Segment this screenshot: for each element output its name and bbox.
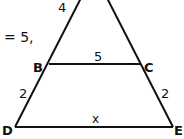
label-top-left: 4 [58, 0, 66, 15]
vertex-c-label: C [144, 60, 154, 75]
label-bc: 5 [94, 49, 102, 64]
triangle-diagram: = 5, 4 5 2 2 x B C D E [0, 0, 184, 139]
label-de: x [92, 112, 99, 126]
vertex-d-label: D [2, 123, 13, 138]
label-ce: 2 [161, 86, 169, 101]
label-bd: 2 [19, 86, 27, 101]
vertex-b-label: B [33, 60, 43, 75]
equation-fragment: = 5, [4, 29, 34, 45]
vertex-e-label: E [174, 123, 183, 138]
